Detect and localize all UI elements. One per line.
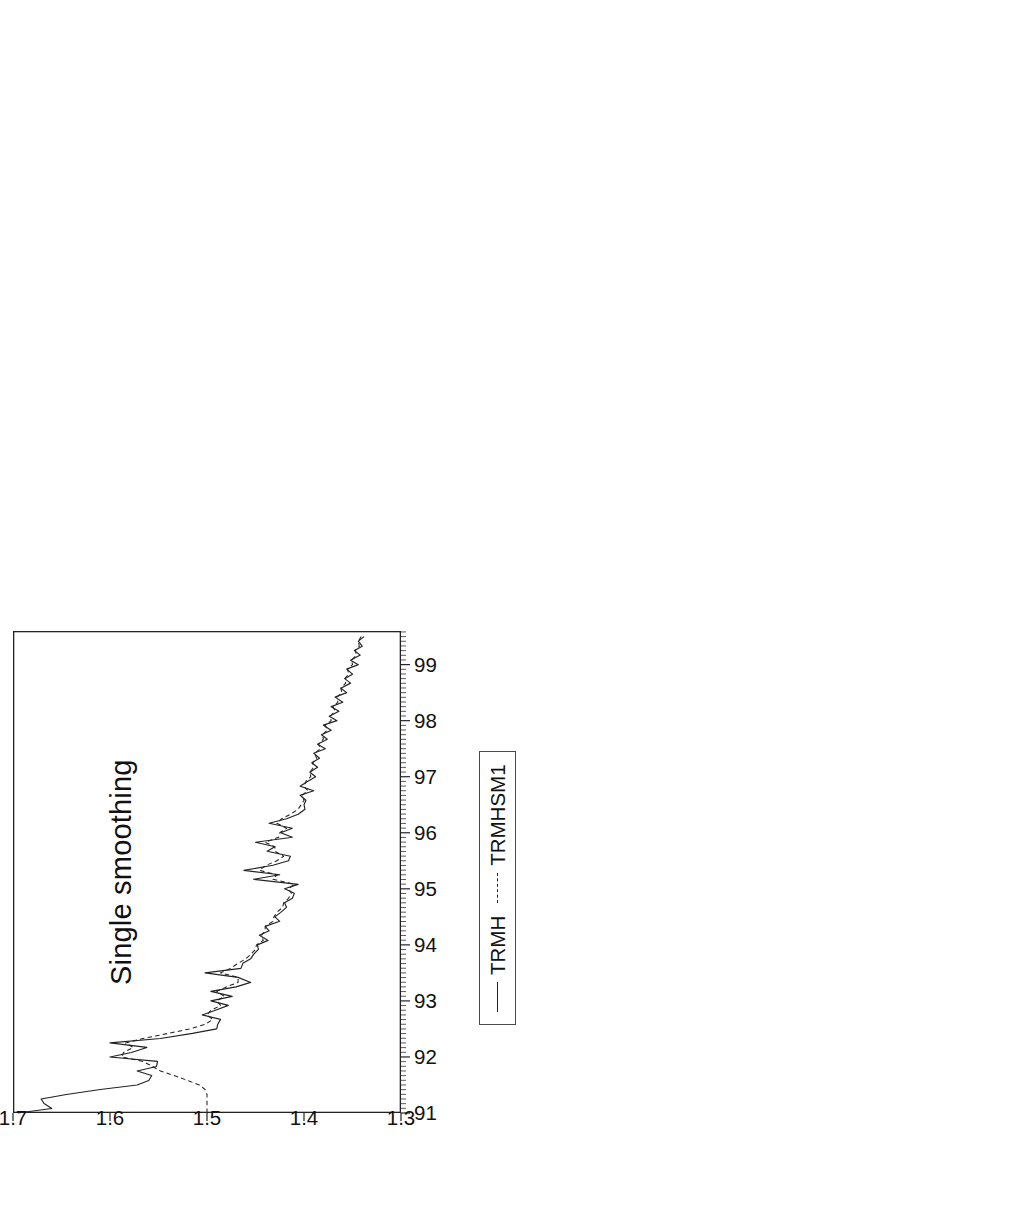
y-tick-label: 1.3 <box>387 1106 416 1130</box>
y-tick-label: 1.5 <box>193 1106 222 1130</box>
x-tick-label: 98 <box>414 709 437 733</box>
chart-title: Single smoothing <box>105 759 138 985</box>
x-tick-label: 92 <box>414 1045 437 1069</box>
x-tick-label: 96 <box>414 821 437 845</box>
y-tick-label: 1.6 <box>96 1106 125 1130</box>
plot-frame <box>14 632 401 1113</box>
figure-page: 9192939495969798991.71.61.51.41.3Holt me… <box>0 0 1012 1231</box>
y-tick-label: 1.7 <box>0 1106 27 1130</box>
plot-area-single-smoothing: 9192939495969798991.71.61.51.41.3Single … <box>13 631 401 1113</box>
x-tick-label: 93 <box>414 989 437 1013</box>
plot-svg-single-smoothing <box>13 631 401 1113</box>
legend-solid-line-icon <box>497 982 498 1012</box>
panel-double-smoothing: 9192939495969798991.71.61.51.41.3Double … <box>500 600 1012 1231</box>
x-tick-label: 95 <box>414 877 437 901</box>
panel-single-smoothing: 9192939495969798991.71.61.51.41.3Single … <box>0 600 500 1231</box>
blank-panel <box>0 0 500 600</box>
y-tick-label: 1.4 <box>290 1106 319 1130</box>
legend-dashed-line-icon <box>497 873 498 903</box>
x-tick-label: 97 <box>414 765 437 789</box>
x-tick-label: 91 <box>414 1101 437 1125</box>
x-tick-label: 94 <box>414 933 437 957</box>
x-axis-ticks <box>401 631 417 1113</box>
x-tick-label: 99 <box>414 653 437 677</box>
panel-holt-method: 9192939495969798991.71.61.51.41.3Holt me… <box>500 0 1012 600</box>
